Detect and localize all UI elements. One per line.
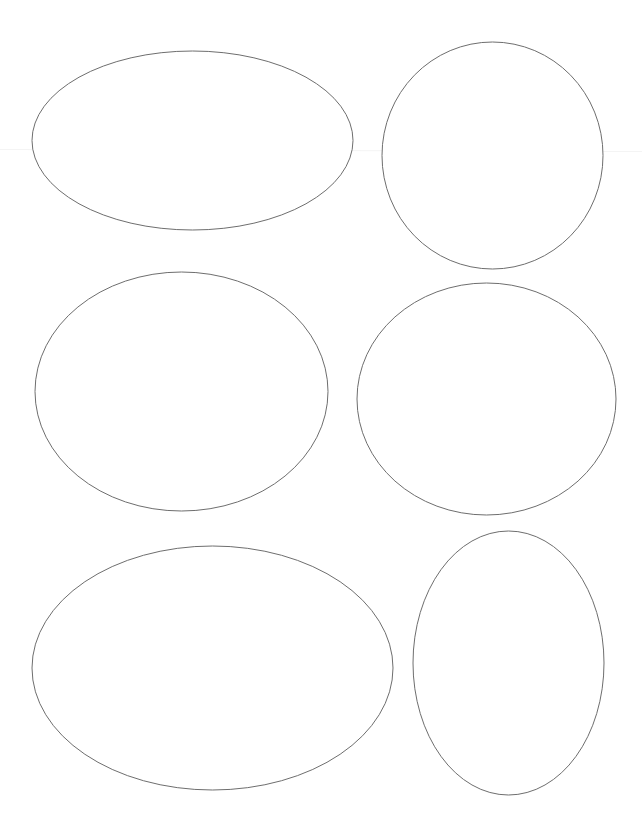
ellipse-outline [32, 51, 353, 230]
ellipse-outline [382, 42, 603, 269]
ellipse-outline [357, 283, 616, 515]
ellipse-outline [35, 272, 328, 511]
ellipse-outline [32, 546, 393, 790]
ellipse-outline [413, 531, 604, 795]
shapes-canvas [0, 0, 642, 835]
